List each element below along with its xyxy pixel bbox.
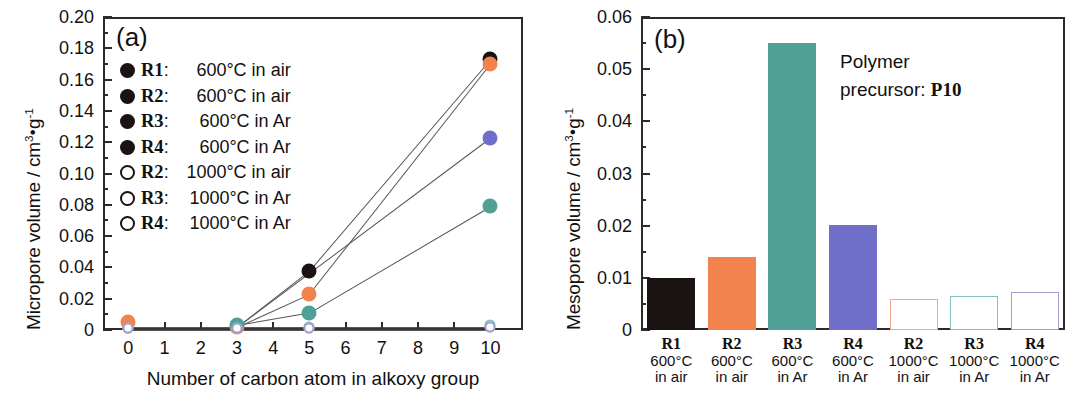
legend-colon: : [164,213,169,234]
panel-b-category-key: R2 [888,336,938,353]
panel-b-category-temp: 600°C [771,353,813,370]
panel-b-category-atmosphere: in air [650,369,692,386]
panel-b-y-major-tick [641,225,650,227]
panel-a-x-tick-label: 2 [196,338,206,359]
panel-b-y-minor-tick [641,42,646,44]
panel-b-bar [950,296,998,330]
legend-row: R4:1000°C in Ar [120,211,291,237]
legend-colon: : [164,111,169,132]
panel-a-x-tick-label: 1 [160,338,170,359]
legend-filled-circle-icon [120,114,135,129]
legend-row: R1:600°C in air [120,58,291,84]
panel-b-y-minor-tick [641,303,646,305]
panel-a-legend: R1:600°C in airR2:600°C in airR3:600°C i… [120,58,291,237]
legend-open-circle-icon [120,191,135,206]
panel-a-y-minor-tick [103,32,108,34]
panel-a-y-minor-tick [103,94,108,96]
legend-colon: : [164,60,169,81]
panel-a-letter: (a) [116,22,148,53]
legend-description: 1000°C in Ar [173,188,291,209]
panel-b-category-label: R3600°Cin Ar [771,336,813,386]
legend-description: 1000°C in Ar [173,213,291,234]
legend-key: R4 [141,137,164,158]
panel-a-y-major-tick [103,298,112,300]
legend-key: R3 [141,111,164,132]
panel-a-data-point [483,199,498,214]
panel-a-y-tick-label: 0.02 [6,288,94,309]
legend-description: 600°C in Ar [173,111,291,132]
legend-key: R2 [141,162,164,183]
legend-key: R3 [141,188,164,209]
panel-b-category-key: R3 [949,336,999,353]
panel-b-category-label: R1600°Cin air [650,336,692,386]
panel-a-y-minor-tick [103,251,108,253]
panel-b-y-tick-label: 0.03 [546,163,632,184]
panel-b-mesopore-bar: Mesopore volume / cm3•g-1 00.010.020.030… [540,0,1079,400]
legend-colon: : [164,188,169,209]
panel-b-y-tick-label: 0.05 [546,59,632,80]
panel-b-category-atmosphere: in Ar [1010,369,1060,386]
panel-b-category-key: R3 [771,336,813,353]
panel-b-category-atmosphere: in Ar [832,369,874,386]
legend-description: 600°C in Ar [173,137,291,158]
figure-container: Micropore volume / cm3•g-1 Number of car… [0,0,1079,400]
legend-colon: : [164,162,169,183]
panel-a-data-point [483,130,498,145]
legend-description: 600°C in air [173,60,291,81]
legend-key: R2 [141,86,164,107]
legend-description: 1000°C in air [173,162,291,183]
panel-b-category-atmosphere: in Ar [949,369,999,386]
legend-row: R3:1000°C in Ar [120,186,291,212]
panel-a-data-point [302,263,317,278]
panel-a-data-point [231,323,242,334]
legend-colon: : [164,86,169,107]
legend-key: R4 [141,213,164,234]
panel-a-y-tick-label: 0.16 [6,69,94,90]
panel-a-y-tick-label: 0.10 [6,163,94,184]
panel-b-bar [708,257,756,330]
legend-row: R3:600°C in Ar [120,109,291,135]
panel-a-x-tick-label: 4 [268,338,278,359]
legend-row: R4:600°C in Ar [120,135,291,161]
legend-key: R1 [141,60,164,81]
annotation-precursor-text: precursor: [840,79,931,100]
panel-a-y-minor-tick [103,282,108,284]
panel-a-y-major-tick [103,47,112,49]
panel-b-category-label: R2600°Cin air [711,336,753,386]
annotation-line-2: precursor: P10 [840,76,961,104]
panel-a-x-tick-label: 8 [413,338,423,359]
panel-a-x-tick-label: 6 [341,338,351,359]
panel-a-y-major-tick [103,16,112,18]
panel-a-y-major-tick [103,266,112,268]
panel-a-data-point [485,321,496,332]
panel-b-category-temp: 600°C [711,353,753,370]
panel-b-category-key: R2 [711,336,753,353]
panel-b-y-tick-label: 0 [546,320,632,341]
legend-filled-circle-icon [120,63,135,78]
annotation-precursor-value: P10 [931,79,962,100]
legend-open-circle-icon [120,165,135,180]
panel-b-bar [1011,292,1059,330]
panel-b-letter: (b) [654,24,686,55]
panel-b-category-temp: 1000°C [949,353,999,370]
panel-a-y-major-tick [103,110,112,112]
panel-a-y-minor-tick [103,157,108,159]
panel-b-y-major-tick [641,16,650,18]
panel-a-data-point [483,56,498,71]
panel-a-data-point [304,323,315,334]
panel-a-y-tick-label: 0.20 [6,7,94,28]
panel-a-y-tick-label: 0.06 [6,226,94,247]
panel-b-category-temp: 600°C [832,353,874,370]
panel-a-y-minor-tick [103,63,108,65]
panel-b-y-minor-tick [641,94,646,96]
panel-b-y-tick-label: 0.01 [546,267,632,288]
panel-a-y-tick-label: 0 [6,320,94,341]
panel-b-y-minor-tick [641,251,646,253]
panel-a-x-axis-title: Number of carbon atom in alkoxy group [103,368,523,390]
panel-a-data-point [302,305,317,320]
panel-a-y-minor-tick [103,313,108,315]
panel-b-category-label: R31000°Cin Ar [949,336,999,386]
legend-row: R2:600°C in air [120,84,291,110]
panel-b-category-label: R4600°Cin Ar [832,336,874,386]
legend-description: 600°C in air [173,86,291,107]
